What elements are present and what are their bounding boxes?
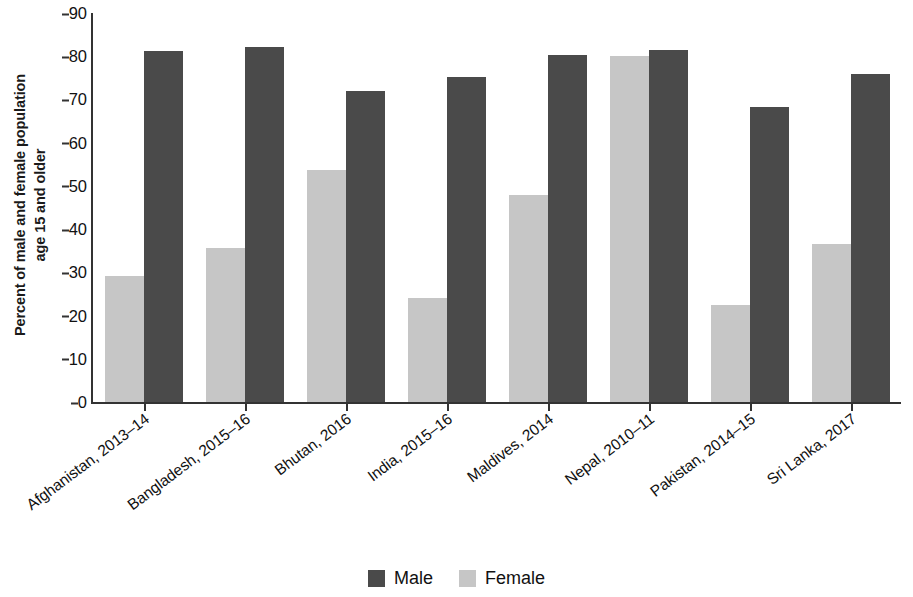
bar-female — [610, 56, 649, 402]
plot-area — [91, 13, 901, 404]
y-axis-tick-mark — [62, 359, 69, 361]
bar-group — [194, 13, 295, 402]
y-axis-tick-mark — [62, 99, 69, 101]
bar-female — [206, 248, 245, 402]
bar-male — [851, 74, 890, 402]
y-axis-tick-mark — [62, 229, 69, 231]
bar-female — [509, 195, 548, 402]
y-axis-title-line-1: Percent of male and female population — [11, 74, 31, 336]
y-axis-tick-label: 10 — [69, 349, 87, 368]
bar-group — [699, 13, 800, 402]
y-axis-tick-mark — [62, 56, 69, 58]
y-axis-tick-label: 50 — [69, 176, 87, 195]
x-axis-label-slot: Bangladesh, 2015–16 — [192, 404, 293, 554]
y-axis-tick-mark — [71, 402, 78, 404]
x-axis-label-slot: Sri Lanka, 2017 — [798, 404, 899, 554]
bar-female — [711, 305, 750, 402]
y-axis-tick-label: 20 — [69, 306, 87, 325]
bar-female — [105, 276, 144, 402]
legend-item: Male — [368, 568, 433, 589]
legend-label: Female — [485, 568, 545, 589]
y-axis-title: Percent of male and female population ag… — [0, 0, 62, 410]
bar-groups — [93, 13, 901, 402]
bar-male — [144, 51, 183, 402]
y-axis-tick-mark — [62, 186, 69, 188]
y-axis-tick-label: 70 — [69, 90, 87, 109]
y-axis-tick-label: 30 — [69, 263, 87, 282]
y-axis-tick-mark — [62, 316, 69, 318]
bar-group — [93, 13, 194, 402]
y-axis-tick-mark — [62, 272, 69, 274]
bar-male — [447, 77, 486, 402]
bar-group — [295, 13, 396, 402]
bar-male — [649, 50, 688, 402]
y-axis-tick-label: 0 — [78, 393, 87, 412]
y-axis-tick-label: 90 — [69, 4, 87, 23]
bar-group — [800, 13, 901, 402]
bar-male — [245, 47, 284, 402]
y-axis-tick-mark — [62, 13, 69, 15]
bar-male — [346, 91, 385, 402]
y-axis-tick-label: 80 — [69, 47, 87, 66]
bar-female — [408, 298, 447, 402]
legend-item: Female — [459, 568, 545, 589]
bar-group — [497, 13, 598, 402]
y-axis-tick-label: 60 — [69, 133, 87, 152]
chart-legend: MaleFemale — [0, 568, 913, 589]
bar-female — [812, 244, 851, 402]
legend-swatch-male — [368, 570, 385, 587]
bar-group — [598, 13, 699, 402]
y-axis-tick-mark — [62, 143, 69, 145]
bar-male — [750, 107, 789, 402]
bar-female — [307, 170, 346, 402]
y-axis-title-line-2: age 15 and older — [31, 74, 51, 336]
legend-swatch-female — [459, 570, 476, 587]
bar-group — [396, 13, 497, 402]
bar-chart: Percent of male and female population ag… — [0, 0, 913, 597]
y-axis-tick-labels: 9080706050403020100 — [55, 0, 87, 410]
legend-label: Male — [394, 568, 433, 589]
bar-male — [548, 55, 587, 402]
y-axis-tick-label: 40 — [69, 220, 87, 239]
x-axis-category-labels: Afghanistan, 2013–14Bangladesh, 2015–16B… — [91, 404, 899, 554]
